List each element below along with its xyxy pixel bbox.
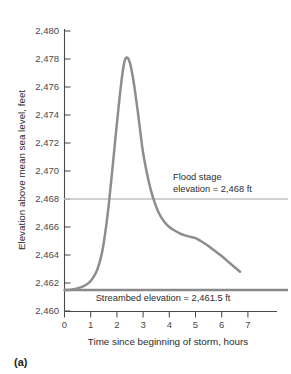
x-tick-label: 1 bbox=[88, 319, 93, 330]
y-tick-label: 2,464 bbox=[35, 249, 59, 260]
x-tick-label: 5 bbox=[193, 319, 198, 330]
y-tick-label: 2,480 bbox=[35, 25, 59, 36]
streambed-annotation: Streambed elevation = 2,461.5 ft bbox=[96, 293, 231, 303]
x-tick-label: 6 bbox=[219, 319, 224, 330]
x-tick-label: 4 bbox=[167, 319, 172, 330]
x-tick-label: 2 bbox=[114, 319, 119, 330]
y-tick-label: 2,472 bbox=[35, 137, 59, 148]
flood-stage-annotation: Flood stage elevation = 2,468 ft bbox=[173, 172, 252, 194]
flood-stage-annotation-line-1: Flood stage bbox=[173, 172, 222, 182]
figure-panel-a: 2,480 2,478 2,476 2,474 2,472 2,470 2,46… bbox=[0, 0, 291, 374]
y-tick-label: 2,466 bbox=[35, 221, 59, 232]
y-axis-ticks: 2,480 2,478 2,476 2,474 2,472 2,470 2,46… bbox=[35, 25, 70, 316]
panel-label: (a) bbox=[14, 356, 28, 368]
y-tick-label: 2,476 bbox=[35, 81, 59, 92]
x-tick-label: 0 bbox=[62, 319, 67, 330]
y-tick-label: 2,478 bbox=[35, 53, 59, 64]
flood-stage-annotation-line-2: elevation = 2,468 ft bbox=[173, 184, 252, 194]
y-tick-label: 2,462 bbox=[35, 277, 59, 288]
y-tick-label: 2,474 bbox=[35, 109, 59, 120]
x-tick-label: 3 bbox=[140, 319, 145, 330]
y-tick-label: 2,468 bbox=[35, 193, 59, 204]
y-tick-label: 2,470 bbox=[35, 165, 59, 176]
hydrograph-chart: 2,480 2,478 2,476 2,474 2,472 2,470 2,46… bbox=[0, 0, 291, 374]
x-tick-label: 7 bbox=[245, 319, 250, 330]
axes bbox=[64, 29, 277, 312]
streambed-annotation-line-1: Streambed elevation = 2,461.5 ft bbox=[96, 293, 231, 303]
y-axis-title: Elevation above mean sea level, feet bbox=[16, 90, 27, 250]
x-axis-ticks: 0 1 2 3 4 5 6 7 bbox=[62, 312, 251, 331]
x-axis-title: Time since beginning of storm, hours bbox=[88, 336, 248, 347]
y-tick-label: 2,460 bbox=[35, 305, 59, 316]
